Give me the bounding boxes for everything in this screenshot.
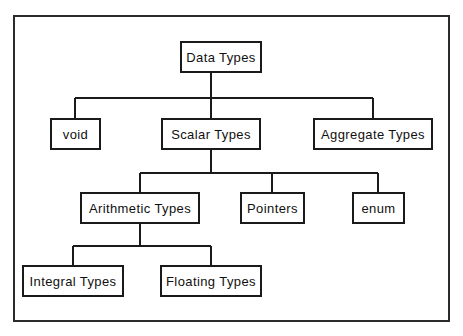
node-enum-label: enum bbox=[361, 202, 395, 215]
node-void-label: void bbox=[63, 128, 88, 141]
node-data-types-label: Data Types bbox=[186, 51, 256, 64]
node-arithmetic-types[interactable]: Arithmetic Types bbox=[80, 192, 200, 224]
node-pointers[interactable]: Pointers bbox=[240, 192, 305, 224]
node-void[interactable]: void bbox=[50, 118, 101, 150]
diagram-canvas: Data Types void Scalar Types Aggregate T… bbox=[0, 0, 463, 336]
node-data-types[interactable]: Data Types bbox=[180, 41, 262, 73]
node-scalar-types-label: Scalar Types bbox=[171, 128, 251, 141]
node-aggregate-types-label: Aggregate Types bbox=[321, 128, 425, 141]
node-enum[interactable]: enum bbox=[352, 192, 405, 224]
node-arithmetic-types-label: Arithmetic Types bbox=[89, 202, 191, 215]
node-integral-types-label: Integral Types bbox=[29, 275, 116, 288]
node-integral-types[interactable]: Integral Types bbox=[22, 265, 124, 297]
node-aggregate-types[interactable]: Aggregate Types bbox=[313, 118, 433, 150]
node-floating-types[interactable]: Floating Types bbox=[160, 265, 262, 297]
node-pointers-label: Pointers bbox=[247, 202, 298, 215]
node-scalar-types[interactable]: Scalar Types bbox=[161, 118, 261, 150]
node-floating-types-label: Floating Types bbox=[166, 275, 256, 288]
